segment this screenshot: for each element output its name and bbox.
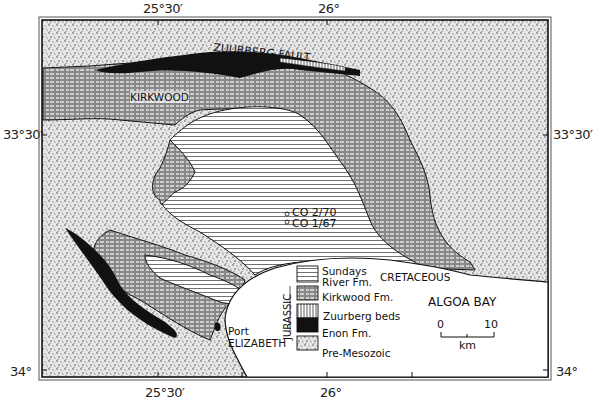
legend-swatch-pre-mesozoic bbox=[297, 336, 318, 350]
scale-bar-start-label: 0 bbox=[437, 318, 444, 331]
port-elizabeth-label-line2: ELIZABETH bbox=[228, 337, 286, 349]
legend-swatch-zuurberg bbox=[297, 304, 318, 318]
legend-period-cretaceous: CRETACEOUS bbox=[380, 272, 450, 283]
scale-bar-unit-label: km bbox=[459, 339, 476, 352]
borehole-co-1-67-label: CO 1/67 bbox=[292, 217, 337, 230]
legend-label-enon: Enon Fm. bbox=[322, 328, 371, 339]
legend-label-zuurberg: Zuurberg beds bbox=[323, 311, 400, 322]
legend-swatch-kirkwood bbox=[297, 286, 318, 300]
algoa-bay-label: ALGOA BAY bbox=[428, 295, 496, 309]
legend-swatch-enon bbox=[297, 318, 318, 332]
legend-label-kirkwood: Kirkwood Fm. bbox=[322, 292, 393, 303]
scale-bar-end-label: 10 bbox=[484, 318, 498, 331]
legend-period-jurassic: JURASSIC bbox=[282, 294, 293, 340]
legend-swatch-sundays-river bbox=[297, 266, 318, 282]
legend-label-pre-mesozoic: Pre-Mesozoic bbox=[322, 348, 391, 359]
port-elizabeth-label-line1: Port bbox=[228, 325, 249, 337]
legend-label-sundays-line2: River Fm. bbox=[322, 277, 372, 288]
kirkwood-label: KIRKWOOD bbox=[130, 91, 189, 103]
